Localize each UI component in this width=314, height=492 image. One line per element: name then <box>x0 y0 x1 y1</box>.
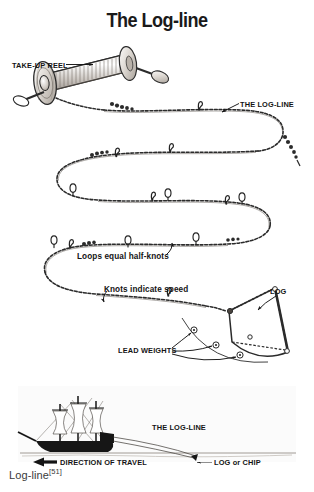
loop <box>125 236 131 247</box>
loop <box>165 189 171 201</box>
loop <box>193 233 199 245</box>
label-knots-indicate-speed: Knots indicate speed <box>104 285 188 294</box>
figure-caption: Log-line[51] <box>9 467 62 481</box>
knot-cluster <box>226 237 239 241</box>
knot <box>151 192 155 200</box>
loop <box>70 184 76 196</box>
leader-lead-weight-2 <box>172 346 212 351</box>
reel-barrel <box>46 54 126 92</box>
label-direction-of-travel: DIRECTION OF TRAVEL <box>60 458 147 467</box>
loop <box>51 236 57 248</box>
lead-weight <box>237 352 243 358</box>
knot-tag-hanging <box>283 135 300 166</box>
knot-clusters <box>82 102 300 246</box>
reel-flange-right <box>117 45 139 81</box>
leader-the-log-line-top <box>222 104 239 113</box>
reel-axle-left <box>12 92 44 108</box>
figure-caption-text: Log-line <box>9 469 49 481</box>
label-log: LOG <box>270 287 286 296</box>
label-loops-equal-half-knots: Loops equal half-knots <box>77 252 169 261</box>
take-up-reel-illustration <box>12 45 170 108</box>
rope-twist-texture <box>46 111 283 307</box>
page-title: The Log-line <box>22 8 292 32</box>
label-take-up-reel: TAKE-UP REEL <box>12 61 68 70</box>
rope-knots <box>69 102 229 296</box>
knot-cluster <box>110 102 134 111</box>
reel-axle-right <box>136 68 170 85</box>
log-line-figure <box>0 0 314 492</box>
label-lead-weights: LEAD WEIGHTS <box>118 346 176 355</box>
label-the-log-line-ship: THE LOG-LINE <box>152 423 206 432</box>
log-line-rope <box>44 98 283 311</box>
rope-loops <box>51 184 245 248</box>
label-log-or-chip: LOG or CHIP <box>214 458 261 467</box>
knot <box>198 102 202 110</box>
figure-caption-reference: [51] <box>49 467 62 476</box>
knot <box>169 144 173 152</box>
lead-weight <box>213 342 219 348</box>
label-the-log-line-top: THE LOG-LINE <box>240 100 294 109</box>
